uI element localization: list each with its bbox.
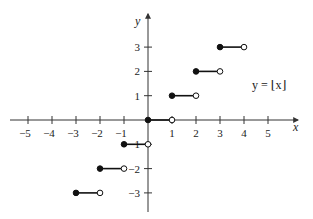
open-point [241,44,247,50]
closed-point [169,93,175,99]
x-tick-label: −1 [115,127,127,139]
step-segment [193,69,223,75]
step-segment [145,117,175,123]
y-tick-label: 2 [135,65,141,77]
step-segment [73,190,103,196]
open-point [145,142,151,148]
step-segment [169,93,199,99]
y-tick-label: 3 [135,41,141,53]
x-tick-label: −5 [19,127,31,139]
function-label: y = ⌊x⌋ [252,78,286,92]
y-tick-label: −2 [128,163,140,175]
y-tick-label: 1 [135,90,141,102]
closed-point [145,117,151,123]
closed-point [73,190,79,196]
x-axis-label: x [292,120,299,134]
step-segment [97,166,127,172]
open-point [97,190,103,196]
x-tick-label: −3 [67,127,79,139]
x-tick-label: 1 [169,127,175,139]
closed-point [121,142,127,148]
x-tick-label: −2 [91,127,103,139]
x-tick-label: −4 [43,127,55,139]
closed-point [97,166,103,172]
open-point [217,69,223,75]
y-axis-label: y [134,14,141,28]
floor-function-graph: −5−4−3−2−112345321−1−2−3 x y y = ⌊x⌋ [0,0,313,219]
x-tick-label: 5 [265,127,271,139]
x-tick-label: 3 [217,127,223,139]
closed-point [193,69,199,75]
y-tick-label: −3 [128,187,140,199]
step-segment [217,44,247,50]
open-point [193,93,199,99]
open-point [121,166,127,172]
open-point [169,117,175,123]
x-tick-label: 4 [241,127,247,139]
plot-area: −5−4−3−2−112345321−1−2−3 x y y = ⌊x⌋ [0,0,313,219]
axes [10,14,298,212]
closed-point [217,44,223,50]
x-tick-label: 2 [193,127,199,139]
